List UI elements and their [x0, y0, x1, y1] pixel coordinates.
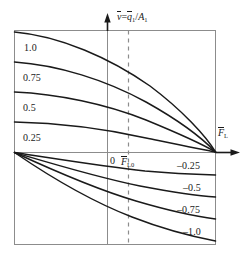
dashed-marker-label: FL0 [121, 157, 134, 167]
y-label-v-text: v [117, 11, 121, 22]
y-label-A-subscript: 1 [144, 16, 147, 23]
curve-label-negative-2: –0.5 [183, 183, 201, 193]
overbar-F [218, 127, 224, 128]
curve-label-positive-4: 0.25 [23, 133, 41, 143]
y-axis-label: v=q1/A1 [117, 12, 147, 22]
curve-label-negative-3: –0.75 [177, 205, 200, 215]
curve-label-positive-2: 0.75 [23, 73, 41, 83]
y-label-v: v [117, 12, 121, 22]
overbar-q [127, 11, 132, 12]
x-axis-arrowhead [231, 149, 241, 155]
plot-canvas [0, 0, 248, 262]
x-label-F-subscript: L [224, 132, 228, 139]
curve-group-positive [15, 32, 216, 152]
marker-F-subscript: L0 [127, 161, 134, 168]
figure-container: v=q1/A1 FL 0 FL0 1.0 0.75 0.5 0.25 –0.25… [0, 0, 248, 262]
curve-label-negative-4: –1.0 [183, 227, 201, 237]
y-label-q-subscript: 1 [132, 16, 135, 23]
curve-label-positive-1: 1.0 [24, 43, 37, 53]
curve-0.75 [15, 62, 216, 152]
curve-1.0 [15, 32, 216, 152]
curve-0.5 [15, 92, 216, 152]
overbar-marker-F [121, 156, 127, 157]
x-axis-label: FL [218, 128, 228, 138]
overbar-v [117, 11, 121, 12]
curve-label-positive-3: 0.5 [23, 103, 36, 113]
origin-label: 0 [110, 156, 115, 166]
curve-label-negative-1: –0.25 [177, 161, 200, 171]
